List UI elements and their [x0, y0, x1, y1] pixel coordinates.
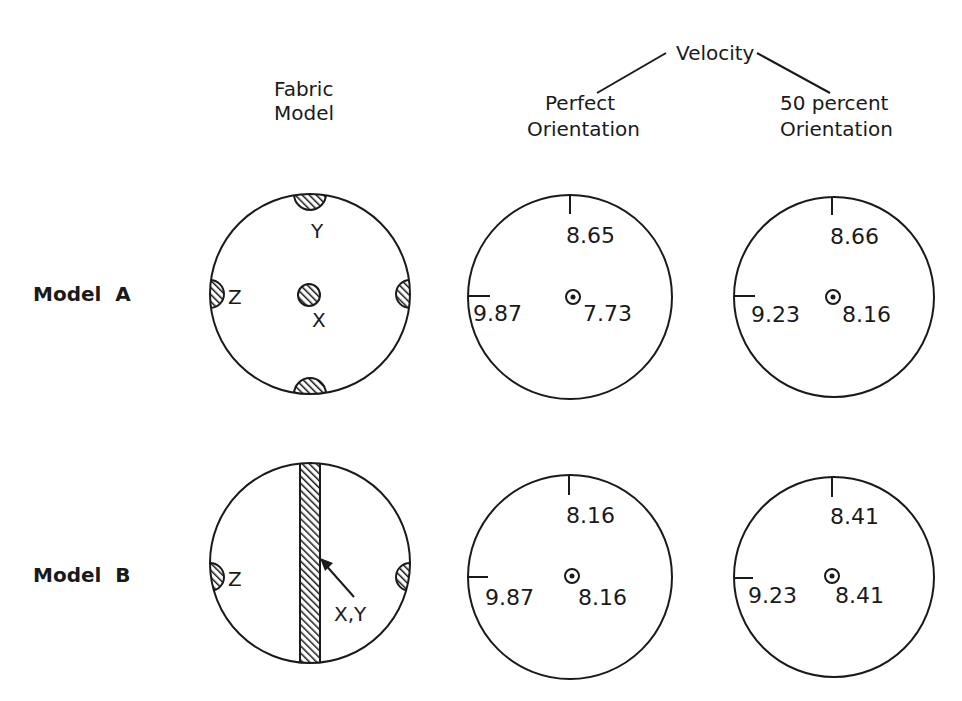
- header-velocity: Velocity: [676, 41, 755, 65]
- axis-label-y: Y: [310, 219, 324, 243]
- velocity-bracket-left: [597, 53, 666, 93]
- axis-label-z: Z: [228, 285, 242, 309]
- hatched-center: [298, 284, 320, 306]
- velocity-center: 8.16: [578, 585, 627, 610]
- header-fifty-line1: 50 percent: [780, 91, 889, 115]
- header-fabric-line1: Fabric: [274, 77, 333, 101]
- axis-label-x: X: [312, 308, 326, 332]
- velocity-top: 8.41: [830, 504, 879, 529]
- header-perfect-line2: Orientation: [527, 117, 640, 141]
- header-perfect-line1: Perfect: [545, 91, 615, 115]
- velocity-left: 9.23: [748, 583, 797, 608]
- velocity-top: 8.65: [566, 223, 615, 248]
- header-fabric-line2: Model: [274, 101, 334, 125]
- velocity-top: 8.16: [566, 503, 615, 528]
- hatched-band: [300, 460, 320, 670]
- fabric-circle-model-b: Z X,Y: [196, 460, 424, 670]
- velocity-top: 8.66: [830, 224, 879, 249]
- velocity-bracket-right: [757, 53, 830, 93]
- velocity-left: 9.87: [473, 301, 522, 326]
- header-fifty-line2: Orientation: [780, 117, 893, 141]
- perfect-circle-model-b: 8.16 9.87 8.16: [467, 475, 672, 679]
- fabric-velocity-diagram: Fabric Model Velocity Perfect Orientatio…: [0, 0, 962, 701]
- axis-label-z: Z: [228, 567, 242, 591]
- fabric-circle-model-a: Y Z X: [196, 178, 424, 410]
- velocity-center: 7.73: [583, 301, 632, 326]
- velocity-left: 9.87: [485, 585, 534, 610]
- velocity-center: 8.16: [842, 302, 891, 327]
- velocity-left: 9.23: [751, 302, 800, 327]
- fifty-circle-model-b: 8.41 9.23 8.41: [734, 476, 934, 677]
- row-label-model-a: Model A: [33, 282, 131, 306]
- arrow-head-icon: [320, 558, 333, 571]
- row-label-model-b: Model B: [33, 563, 131, 587]
- velocity-center: 8.41: [835, 583, 884, 608]
- axis-label-xy: X,Y: [334, 602, 367, 626]
- fifty-circle-model-a: 8.66 9.23 8.16: [734, 197, 934, 397]
- perfect-circle-model-a: 8.65 9.87 7.73: [468, 195, 672, 399]
